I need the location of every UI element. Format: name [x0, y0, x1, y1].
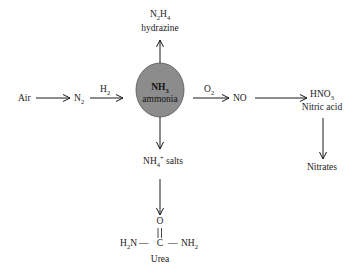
nitric-acid-label: Nitric acid — [302, 103, 342, 113]
hno3-formula: HNO3 — [310, 90, 334, 100]
urea-left-bond: — — [139, 239, 149, 249]
urea-left-amine: H2N — [120, 239, 137, 249]
no-label: NO — [233, 94, 247, 104]
ammonia-formula: NH3 — [151, 83, 169, 93]
ammonium-salts-label: NH4+ salts — [143, 157, 183, 167]
hydrazine-formula: N2H4 — [150, 10, 170, 20]
urea-carbon: C — [157, 239, 163, 249]
urea-oxygen: O — [157, 217, 164, 227]
urea-right-amine: NH2 — [181, 239, 198, 249]
n2-label: N2 — [74, 94, 84, 104]
o2-edge-label: O2 — [204, 85, 214, 95]
urea-label: Urea — [151, 255, 169, 265]
nitrates-label: Nitrates — [307, 163, 337, 173]
ammonia-label: ammonia — [142, 95, 177, 105]
diagram-canvas — [0, 0, 344, 274]
air-label: Air — [18, 94, 31, 104]
h2-edge-label: H2 — [100, 85, 110, 95]
urea-right-bond: — — [168, 239, 178, 249]
hydrazine-label: hydrazine — [141, 24, 178, 34]
